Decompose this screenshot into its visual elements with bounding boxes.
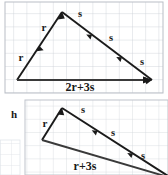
label-s-bottom-3: s bbox=[141, 150, 145, 161]
bottom-panel-grid bbox=[25, 100, 168, 175]
label-resultant-bottom: r+3s bbox=[74, 159, 97, 173]
vector-diagram-svg: r r s s s 2r+3s r s s s r+3s h bbox=[0, 0, 168, 175]
corner-grid bbox=[0, 140, 20, 175]
label-s-bottom-1: s bbox=[81, 104, 85, 115]
label-s-top-2: s bbox=[109, 32, 113, 43]
label-s-top-1: s bbox=[78, 8, 82, 19]
panel-label-h: h bbox=[11, 108, 17, 120]
figure-canvas: r r s s s 2r+3s r s s s r+3s h bbox=[0, 0, 168, 175]
label-s-bottom-2: s bbox=[111, 127, 115, 138]
label-r-top-2: r bbox=[42, 21, 47, 33]
label-s-top-3: s bbox=[140, 56, 144, 67]
label-r-top-1: r bbox=[19, 51, 24, 63]
label-r-bottom: r bbox=[43, 117, 48, 129]
label-resultant-top: 2r+3s bbox=[66, 80, 95, 94]
